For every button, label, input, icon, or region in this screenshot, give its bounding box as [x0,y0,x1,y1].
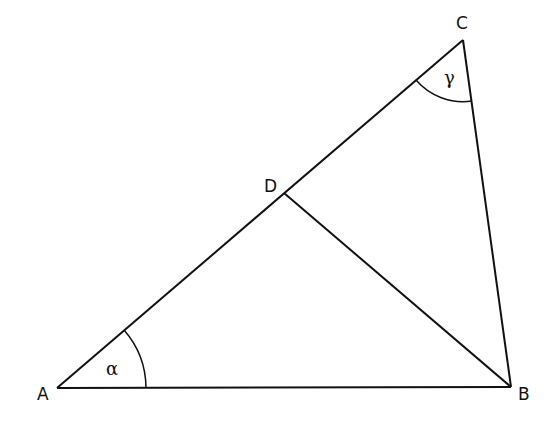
segment-db [284,193,511,387]
angle-alpha-arc [124,330,146,388]
angle-label-alpha: α [106,358,118,379]
segment-bc [463,40,511,387]
point-label-a: A [37,384,49,404]
point-label-b: B [518,384,530,404]
point-label-d: D [264,176,277,196]
segment-ca [57,40,463,388]
triangle-diagram: A B C D α γ [0,0,556,429]
point-label-c: C [456,13,468,33]
segment-ab [57,387,511,388]
angle-label-gamma: γ [444,67,455,88]
